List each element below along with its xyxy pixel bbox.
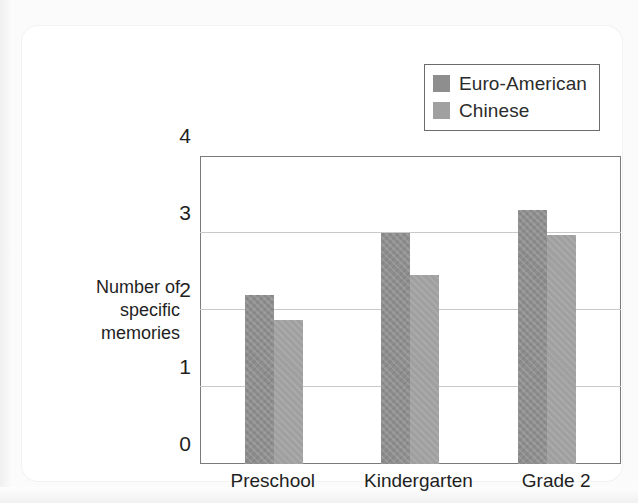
- bar-group: [518, 156, 576, 464]
- bar[interactable]: [547, 235, 576, 464]
- y-tick-label: 0: [179, 433, 191, 454]
- chart-legend: Euro-American Chinese: [424, 64, 600, 131]
- legend-entry-chinese: Chinese: [433, 97, 587, 124]
- legend-label-euro-american: Euro-American: [459, 73, 587, 95]
- y-axis-title-line-1: Number of: [40, 276, 180, 299]
- x-tick-label: Preschool: [231, 470, 316, 492]
- bar[interactable]: [381, 233, 410, 464]
- scanned-page: Euro-American Chinese Number of specific…: [0, 0, 638, 503]
- y-tick-label: 3: [179, 202, 191, 223]
- y-tick-label: 2: [179, 279, 191, 300]
- bar[interactable]: [274, 320, 303, 464]
- x-tick-label: Grade 2: [522, 470, 591, 492]
- legend-entry-euro-american: Euro-American: [433, 70, 587, 97]
- legend-swatch-euro-american: [433, 75, 450, 92]
- bar-groups: [200, 156, 621, 464]
- y-axis-title-line-3: memories: [40, 322, 180, 345]
- y-axis-title-line-2: specific: [40, 299, 180, 322]
- bar[interactable]: [410, 275, 439, 464]
- page-edge-left: [0, 0, 14, 503]
- legend-swatch-chinese: [433, 102, 450, 119]
- bar[interactable]: [245, 295, 274, 464]
- x-tick-label: Kindergarten: [364, 470, 473, 492]
- figure-card: Euro-American Chinese Number of specific…: [22, 26, 622, 481]
- x-axis-tick-labels: PreschoolKindergartenGrade 2: [200, 470, 621, 492]
- bar[interactable]: [518, 210, 547, 464]
- plot-wrap: 01234: [200, 156, 621, 464]
- y-axis-title: Number of specific memories: [40, 276, 180, 345]
- legend-label-chinese: Chinese: [459, 100, 529, 122]
- y-tick-label: 4: [179, 125, 191, 146]
- bar-group: [245, 156, 303, 464]
- y-tick-label: 1: [179, 356, 191, 377]
- bar-group: [381, 156, 439, 464]
